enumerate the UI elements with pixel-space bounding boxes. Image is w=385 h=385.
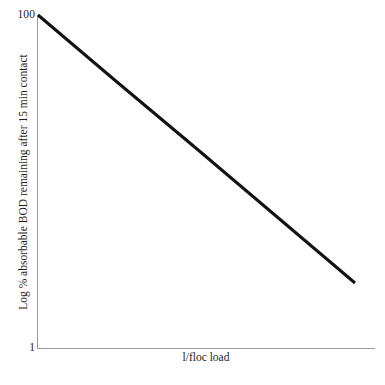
y-axis-title: Log % absorbable BOD remaining after 15 … xyxy=(16,15,30,349)
plot-canvas xyxy=(0,0,385,385)
x-axis-line xyxy=(37,348,375,349)
x-axis-title: l/floc load xyxy=(37,350,375,364)
data-series-line xyxy=(38,15,355,283)
y-axis-line xyxy=(37,15,38,349)
y-tick-label-bottom: 1 xyxy=(29,341,35,353)
chart-figure: 100 1 Log % absorbable BOD remaining aft… xyxy=(0,0,385,385)
